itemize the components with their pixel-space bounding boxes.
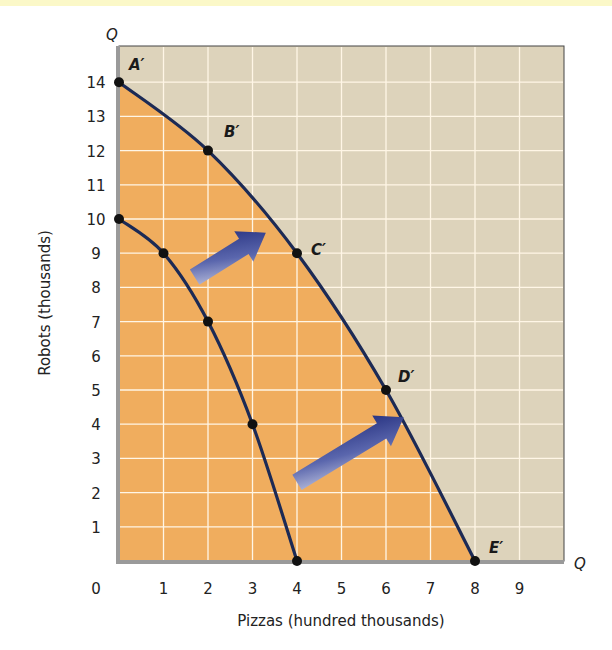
y-tick-label: 5 [91,382,101,400]
y-axis-label: Robots (thousands) [36,230,54,376]
y-tick-labels: 1234567891011121314 [86,74,105,537]
point-label: B′ [224,123,239,141]
x-tick-labels: 0123456789 [91,580,524,598]
y-tick-label: 12 [86,143,105,161]
x-tick-label: 3 [248,580,258,598]
y-tick-label: 2 [91,485,101,503]
y-tick-label: 6 [91,348,101,366]
data-point [114,214,124,224]
y-tick-label: 10 [86,211,105,229]
x-tick-label: 7 [426,580,436,598]
point-label: E′ [489,539,503,557]
x-tick-label: 8 [470,580,480,598]
y-tick-label: 4 [91,416,101,434]
y-axis-q-label: Q [106,26,118,44]
data-point [292,248,302,258]
x-tick-label: 2 [203,580,213,598]
y-tick-label: 1 [91,519,101,537]
y-tick-label: 9 [91,245,101,263]
data-point [292,556,302,566]
data-point [381,385,391,395]
data-point [203,317,213,327]
point-label: C′ [311,241,326,259]
x-tick-label: 9 [515,580,525,598]
x-axis-q-label: Q [574,555,586,573]
point-label: A′ [128,56,145,74]
x-tick-label: 4 [292,580,302,598]
data-point [248,419,258,429]
x-tick-label: 0 [91,580,101,598]
data-point [470,556,480,566]
ppf-chart: A′B′C′D′E′ 0123456789 123456789101112131… [0,0,612,650]
y-tick-label: 8 [91,279,101,297]
data-point [159,248,169,258]
x-tick-label: 5 [337,580,347,598]
point-label: D′ [398,368,414,386]
x-tick-label: 6 [381,580,391,598]
y-tick-label: 7 [91,314,101,332]
y-tick-label: 13 [86,108,105,126]
y-tick-label: 11 [86,177,105,195]
data-point [203,146,213,156]
y-tick-label: 14 [86,74,105,92]
x-axis-label: Pizzas (hundred thousands) [237,612,444,630]
data-point [114,77,124,87]
x-tick-label: 1 [159,580,169,598]
y-tick-label: 3 [91,450,101,468]
